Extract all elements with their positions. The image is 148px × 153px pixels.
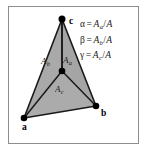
area-label-Ac: Ac xyxy=(55,84,64,95)
area-label-Ac-base: A xyxy=(55,84,61,94)
equation-gamma-numerator-base: A xyxy=(93,50,99,60)
vertex-label-b: b xyxy=(101,108,106,118)
equation-gamma: γ=Ac/A xyxy=(80,49,136,65)
equation-gamma-denominator: A xyxy=(105,50,111,60)
figure-root: Ab Aa Ac a b c α=Aa/A β=Ab/A γ=Ac/A xyxy=(0,0,148,153)
vertex-dot-b xyxy=(93,103,100,110)
equation-beta-denominator: A xyxy=(106,35,112,45)
area-label-Ab: Ab xyxy=(41,56,50,67)
vertex-dot-a xyxy=(21,115,28,122)
area-label-Aa: Aa xyxy=(63,55,72,66)
equation-block: α=Aa/A β=Ab/A γ=Ac/A xyxy=(80,18,136,65)
equation-gamma-equals: = xyxy=(84,50,92,60)
interior-point-dot xyxy=(59,68,66,75)
equation-beta: β=Ab/A xyxy=(80,34,136,50)
equation-alpha-denominator: A xyxy=(106,19,112,29)
equation-alpha: α=Aa/A xyxy=(80,18,136,34)
area-label-Ab-subscript: b xyxy=(47,60,50,67)
vertex-label-c: c xyxy=(69,16,73,26)
area-label-Aa-base: A xyxy=(63,55,69,65)
vertex-label-a: a xyxy=(22,122,27,132)
equation-alpha-equals: = xyxy=(85,19,93,29)
vertex-dot-c xyxy=(59,16,66,23)
area-label-Aa-subscript: a xyxy=(69,59,72,66)
area-label-Ab-base: A xyxy=(41,56,47,66)
area-label-Ac-subscript: c xyxy=(61,88,64,95)
